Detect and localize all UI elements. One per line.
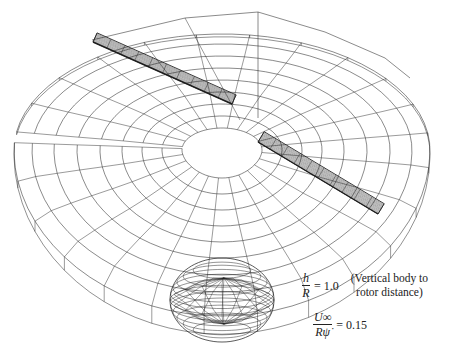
advance-ratio-value: = 0.15 — [336, 319, 367, 331]
rotor-wake-wireframe — [0, 0, 450, 358]
height-ratio-annotation: h R = 1.0 (Vertical body to rotor distan… — [302, 272, 428, 299]
height-ratio-note: (Vertical body to rotor distance) — [351, 272, 428, 298]
h-over-r-fraction: h R — [302, 272, 310, 299]
fraction-denominator: R — [302, 286, 309, 299]
fraction-denominator: Rψ̇ — [315, 325, 330, 338]
note-line-2: rotor distance) — [356, 286, 423, 298]
height-ratio-value: = 1.0 — [314, 280, 339, 292]
fraction-numerator: h — [302, 272, 310, 286]
u-over-r-psi-fraction: U∞ Rψ̇ — [313, 311, 332, 338]
figure-canvas: h R = 1.0 (Vertical body to rotor distan… — [0, 0, 450, 358]
advance-ratio-annotation: U∞ Rψ̇ = 0.15 — [313, 311, 367, 338]
fraction-numerator: U∞ — [313, 311, 332, 325]
note-line-1: (Vertical body to — [351, 272, 428, 284]
